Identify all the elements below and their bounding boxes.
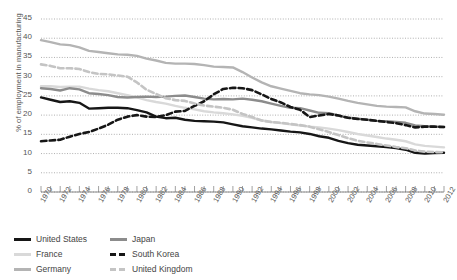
- chart-legend: United StatesJapanFranceSouth KoreaGerma…: [14, 232, 276, 277]
- legend-swatch-united-kingdom: [110, 268, 127, 270]
- legend-label-france: France: [36, 250, 62, 259]
- legend-swatch-germany: [14, 268, 31, 270]
- legend-label-germany: Germany: [36, 265, 71, 274]
- legend-label-united-states: United States: [36, 235, 87, 244]
- legend-label-united-kingdom: United Kingdom: [132, 265, 192, 274]
- legend-item-united-kingdom[interactable]: United Kingdom: [110, 262, 276, 277]
- legend-swatch-south-korea: [110, 253, 127, 255]
- legend-item-south-korea[interactable]: South Korea: [110, 247, 276, 262]
- series-line-germany: [41, 40, 444, 115]
- legend-item-united-states[interactable]: United States: [14, 232, 110, 247]
- legend-item-france[interactable]: France: [14, 247, 110, 262]
- legend-item-japan[interactable]: Japan: [110, 232, 276, 247]
- legend-swatch-united-states: [14, 238, 31, 240]
- legend-item-germany[interactable]: Germany: [14, 262, 110, 277]
- legend-swatch-france: [14, 253, 31, 255]
- legend-label-south-korea: South Korea: [132, 250, 179, 259]
- legend-label-japan: Japan: [132, 235, 155, 244]
- legend-swatch-japan: [110, 238, 127, 240]
